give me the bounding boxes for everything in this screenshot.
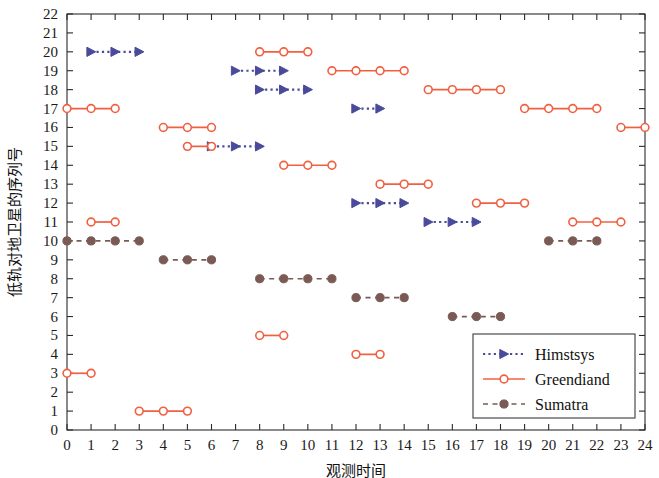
data-point-marker-open-circle <box>400 180 408 188</box>
data-point-marker-open-circle <box>497 199 505 207</box>
x-tick-label: 17 <box>469 437 485 453</box>
y-tick-label: 5 <box>51 327 59 343</box>
data-point-marker-filled-circle <box>593 237 601 245</box>
y-tick-label: 1 <box>51 403 59 419</box>
series-segment <box>352 198 409 207</box>
series-himstsys <box>87 47 481 226</box>
data-point-marker-open-circle <box>593 105 601 113</box>
x-tick-label: 8 <box>256 437 264 453</box>
x-axis-title: 观测时间 <box>326 462 386 478</box>
series-segment <box>87 218 119 226</box>
data-point-marker-open-circle <box>87 105 95 113</box>
data-point-marker-open-circle <box>497 86 505 94</box>
data-point-marker-triangle <box>352 104 361 113</box>
y-tick-label: 3 <box>51 365 59 381</box>
data-point-marker-filled-circle <box>111 237 119 245</box>
data-point-marker-triangle <box>376 198 385 207</box>
legend-label: Himstsys <box>535 346 595 364</box>
data-point-marker-open-circle <box>280 332 288 340</box>
data-point-marker-open-circle <box>111 105 119 113</box>
y-tick-label: 8 <box>51 271 59 287</box>
y-tick-label: 4 <box>51 346 59 362</box>
x-tick-label: 13 <box>373 437 388 453</box>
data-point-marker-filled-circle <box>376 294 384 302</box>
series-segment <box>473 199 529 207</box>
data-point-marker-open-circle <box>448 86 456 94</box>
data-point-marker-open-circle <box>569 105 577 113</box>
y-axis-title: 低轨对地卫星的序列号 <box>6 147 23 297</box>
data-point-marker-triangle <box>376 104 385 113</box>
x-tick-label: 7 <box>232 437 240 453</box>
data-point-marker-triangle <box>255 142 264 151</box>
data-point-marker-open-circle <box>400 67 408 75</box>
y-tick-label: 15 <box>43 138 58 154</box>
series-segment <box>448 312 504 320</box>
data-point-marker-filled-circle <box>400 294 408 302</box>
y-tick-label: 11 <box>44 214 58 230</box>
y-tick-label: 16 <box>43 119 59 135</box>
data-point-marker-triangle <box>111 47 120 56</box>
data-point-marker-open-circle <box>521 105 529 113</box>
y-tick-label: 21 <box>43 25 58 41</box>
data-point-marker-filled-circle <box>569 237 577 245</box>
data-point-marker-open-circle <box>376 350 384 358</box>
data-point-marker-filled-circle <box>87 237 95 245</box>
data-point-marker-open-circle <box>280 48 288 56</box>
series-segment <box>159 124 215 132</box>
data-point-marker-triangle <box>255 85 264 94</box>
data-point-marker-triangle <box>448 217 457 226</box>
series-segment <box>352 104 385 113</box>
x-axis-tick-labels: 0123456789101112131415161718192021222324 <box>63 437 653 453</box>
series-segment <box>256 275 336 283</box>
series-segment <box>352 294 408 302</box>
series-segment <box>376 180 432 188</box>
series-segment <box>87 47 144 56</box>
data-point-marker-open-circle <box>208 142 216 150</box>
x-tick-label: 3 <box>136 437 144 453</box>
x-tick-label: 19 <box>517 437 532 453</box>
data-point-marker-filled-circle <box>280 275 288 283</box>
x-tick-label: 5 <box>184 437 192 453</box>
data-point-marker-open-circle <box>545 105 553 113</box>
x-tick-label: 23 <box>613 437 628 453</box>
y-tick-label: 19 <box>43 63 58 79</box>
data-point-marker-open-circle <box>617 124 625 132</box>
data-point-marker-open-circle <box>328 67 336 75</box>
series-segment <box>256 48 312 56</box>
series-segment <box>184 142 216 150</box>
series-segment <box>280 161 336 169</box>
x-tick-label: 2 <box>111 437 119 453</box>
data-point-marker-open-circle <box>256 332 264 340</box>
data-point-marker-open-circle <box>376 67 384 75</box>
data-point-marker-filled-circle <box>256 275 264 283</box>
data-point-marker-open-circle <box>87 369 95 377</box>
data-point-marker-open-circle <box>63 105 71 113</box>
data-point-marker-open-circle <box>111 218 119 226</box>
series-segment <box>255 85 312 94</box>
data-point-marker-open-circle <box>87 218 95 226</box>
data-point-marker-open-circle <box>641 124 649 132</box>
y-tick-label: 10 <box>43 233 58 249</box>
data-point-marker-filled-circle <box>496 312 504 320</box>
data-point-marker-open-circle <box>184 142 192 150</box>
data-point-marker-filled-circle <box>207 256 215 264</box>
series-segment <box>256 332 288 340</box>
data-point-marker-filled-circle <box>135 237 143 245</box>
chart-legend: HimstsysGreendiandSumatra <box>473 334 635 418</box>
y-tick-label: 9 <box>51 252 59 268</box>
data-point-marker-triangle <box>280 85 289 94</box>
series-segment <box>159 256 215 264</box>
x-tick-label: 22 <box>589 437 604 453</box>
x-tick-label: 6 <box>208 437 216 453</box>
x-tick-label: 12 <box>349 437 364 453</box>
y-tick-label: 12 <box>43 195 58 211</box>
data-point-marker-open-circle <box>352 67 360 75</box>
data-point-marker-filled-circle <box>328 275 336 283</box>
data-point-marker-open-circle <box>521 199 529 207</box>
data-point-marker-filled-circle <box>545 237 553 245</box>
x-tick-label: 0 <box>63 437 71 453</box>
x-tick-label: 21 <box>565 437 580 453</box>
legend-label: Greendiand <box>535 371 610 388</box>
series-segment <box>63 105 119 113</box>
data-point-marker-open-circle <box>593 218 601 226</box>
